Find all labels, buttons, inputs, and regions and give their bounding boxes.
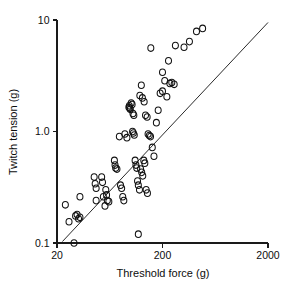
scatter-point — [62, 202, 68, 209]
scatter-point — [91, 174, 97, 181]
scatter-point — [135, 231, 141, 238]
scatter-point — [66, 218, 72, 225]
scatter-point — [166, 58, 172, 65]
scatter-point — [164, 93, 170, 100]
scatter-point — [136, 187, 142, 194]
x-axis-title: Threshold force (g) — [117, 267, 210, 279]
scatter-point — [135, 182, 141, 189]
y-tick-label: 10 — [38, 14, 50, 26]
scatter-point — [181, 44, 187, 51]
scatter-point — [138, 82, 144, 89]
scatter-point — [77, 193, 83, 200]
x-tick-label: 20 — [51, 249, 63, 261]
scatter-point — [200, 25, 206, 32]
scatter-point — [153, 119, 159, 126]
scatter-point — [144, 114, 150, 121]
x-tick-label: 200 — [154, 249, 172, 261]
scatter-point — [148, 45, 154, 52]
scatter-plot-figure: 0.11.010202002000 Threshold force (g) Tw… — [0, 0, 289, 284]
scatter-point — [193, 28, 199, 35]
x-tick-label: 2000 — [256, 249, 280, 261]
scatter-point — [155, 107, 161, 114]
regression-line — [62, 22, 268, 241]
scatter-point — [93, 185, 99, 192]
scatter-point — [121, 197, 127, 204]
scatter-point — [160, 69, 166, 76]
y-tick-label: 0.1 — [35, 237, 50, 249]
scatter-point — [186, 38, 192, 45]
plot-canvas: 0.11.010202002000 Threshold force (g) Tw… — [0, 0, 289, 284]
scatter-point — [142, 112, 148, 119]
data-points — [62, 25, 205, 246]
y-tick-label: 1.0 — [35, 125, 50, 137]
scatter-point — [93, 197, 99, 204]
scatter-point — [151, 153, 157, 160]
y-axis-title: Twitch tension (g) — [7, 89, 19, 175]
scatter-point — [172, 42, 178, 49]
axes — [53, 20, 269, 248]
